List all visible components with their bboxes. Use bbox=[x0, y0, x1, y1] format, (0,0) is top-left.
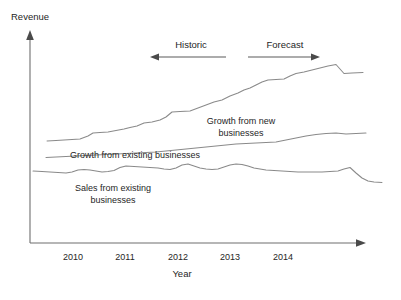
y-axis-title: Revenue bbox=[11, 11, 49, 22]
y-axis-arrowhead bbox=[26, 30, 34, 40]
historic-period-label: Historic bbox=[175, 39, 207, 50]
y-axis bbox=[26, 30, 34, 243]
historic-arrowhead bbox=[150, 53, 159, 60]
forecast-period-label: Forecast bbox=[267, 39, 304, 50]
historic-period-arrow bbox=[150, 53, 226, 60]
series-label-sales-existing-line1: Sales from existing bbox=[75, 183, 151, 193]
x-axis-arrowhead bbox=[356, 239, 366, 247]
series-label-sales-existing-line2: businesses bbox=[90, 195, 136, 205]
series-label-growth-existing: Growth from existing businesses bbox=[70, 150, 201, 160]
x-axis bbox=[30, 239, 366, 247]
x-tick-label-2013: 2013 bbox=[220, 252, 240, 262]
series-line-sales-existing-businesses bbox=[33, 164, 382, 183]
x-axis-title: Year bbox=[172, 268, 191, 279]
x-tick-label-2012: 2012 bbox=[168, 252, 188, 262]
series-label-growth-new-line2: businesses bbox=[218, 128, 264, 138]
series-label-growth-new-line1: Growth from new bbox=[207, 116, 276, 126]
forecast-arrowhead bbox=[311, 53, 320, 60]
x-tick-label-2010: 2010 bbox=[63, 252, 83, 262]
x-tick-label-2014: 2014 bbox=[273, 252, 293, 262]
forecast-period-arrow bbox=[248, 53, 320, 60]
series-line-growth-new-businesses bbox=[47, 65, 363, 142]
chart-canvas: Revenue Historic Forecast Growth from ne… bbox=[0, 0, 401, 300]
x-tick-label-2011: 2011 bbox=[115, 252, 134, 262]
revenue-forecast-chart: Revenue Historic Forecast Growth from ne… bbox=[0, 0, 401, 300]
